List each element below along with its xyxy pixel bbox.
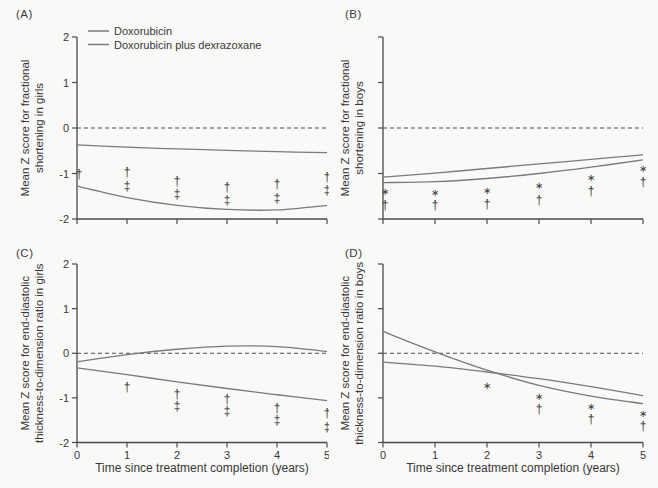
- y-axis-title-line2: shortening in girls: [33, 83, 45, 173]
- significance-marker: ∗: [431, 187, 439, 198]
- panel-b-chart: ∗†∗†∗†∗†∗†∗†Mean Z score for fractionals…: [329, 0, 658, 244]
- y-tick-label: 1: [63, 77, 69, 89]
- legend-label: Doxorubicin plus dexrazoxane: [114, 39, 261, 51]
- significance-marker: ∗: [587, 401, 595, 412]
- panel-a-chart: 210-1-2††‡†‡†‡†‡†‡Mean Z score for fract…: [0, 0, 329, 244]
- y-tick-label: 0: [63, 122, 69, 134]
- significance-marker: †: [124, 380, 131, 394]
- significance-marker: †: [274, 177, 281, 191]
- y-tick-label: -2: [59, 213, 69, 225]
- significance-marker: †: [382, 198, 389, 212]
- y-axis-title-line2: shortening in boys: [353, 81, 365, 175]
- x-tick-label: 0: [380, 449, 386, 461]
- series-line-doxorubicin: [383, 331, 643, 403]
- series-line-doxorubicin-plus-dexrazoxane: [77, 145, 327, 153]
- x-tick-label: 1: [432, 449, 438, 461]
- y-axis-title-line2: thickness-to-dimension ratio in girls: [33, 263, 45, 443]
- significance-marker: ∗: [535, 391, 543, 402]
- panel-d-chart: 012345∗∗†∗†∗†Mean Z score for end-diasto…: [329, 244, 658, 488]
- significance-marker: †: [588, 412, 595, 426]
- significance-marker: ∗: [381, 186, 389, 197]
- series-line-doxorubicin: [77, 186, 327, 210]
- significance-marker: ∗: [639, 163, 647, 174]
- significance-marker: ∗: [639, 408, 647, 419]
- significance-marker: ‡: [124, 179, 131, 193]
- x-axis-title-right: Time since treatment completion (years): [388, 461, 638, 475]
- y-axis-title-line1: Mean Z score for end-diastolic: [19, 276, 31, 431]
- x-tick-label: 4: [588, 449, 594, 461]
- x-tick-label: 4: [274, 449, 280, 461]
- x-tick-label: 3: [224, 449, 230, 461]
- x-tick-label: 1: [124, 449, 130, 461]
- significance-marker: ‡: [224, 404, 231, 418]
- x-tick-label: 2: [484, 449, 490, 461]
- x-tick-label: 5: [640, 449, 646, 461]
- y-tick-label: -1: [59, 392, 69, 404]
- four-panel-z-score-figure: (A) (B) (C) (D) 210-1-2††‡†‡†‡†‡†‡Mean Z…: [0, 0, 658, 488]
- legend-label: Doxorubicin: [114, 25, 172, 37]
- y-axis-title-line1: Mean Z score for end-diastolic: [339, 276, 351, 431]
- significance-marker: †: [588, 184, 595, 198]
- x-axis-title-left: Time since treatment completion (years): [77, 461, 327, 475]
- y-axis-title-line2: thickness-to-dimension ratio in boys: [353, 262, 365, 445]
- significance-marker: †: [536, 402, 543, 416]
- significance-marker: †: [640, 419, 647, 433]
- y-tick-label: 1: [63, 303, 69, 315]
- significance-marker: †: [484, 197, 491, 211]
- significance-marker: †: [124, 165, 131, 179]
- panel-c-chart: 210-1-2012345††‡†‡†‡†‡Mean Z score for e…: [0, 244, 329, 488]
- y-tick-label: 0: [63, 347, 69, 359]
- significance-marker: ∗: [483, 185, 491, 196]
- significance-marker: ∗: [587, 172, 595, 183]
- x-tick-label: 2: [174, 449, 180, 461]
- significance-marker: †: [432, 198, 439, 212]
- x-tick-label: 0: [74, 449, 80, 461]
- significance-marker: ‡: [174, 187, 181, 201]
- significance-marker: ∗: [483, 380, 491, 391]
- significance-marker: ‡: [174, 399, 181, 413]
- significance-marker: ∗: [535, 180, 543, 191]
- x-tick-label: 3: [536, 449, 542, 461]
- significance-marker: †: [640, 175, 647, 189]
- y-tick-label: 2: [63, 258, 69, 270]
- series-line-doxorubicin: [77, 368, 327, 401]
- y-tick-label: -2: [59, 437, 69, 449]
- y-tick-label: -1: [59, 168, 69, 180]
- y-tick-label: 2: [63, 31, 69, 43]
- significance-marker: ‡: [274, 413, 281, 427]
- significance-marker: ‡: [274, 191, 281, 205]
- y-axis-title-line1: Mean Z score for fractional: [19, 60, 31, 197]
- series-line-doxorubicin: [383, 160, 643, 183]
- series-line-doxorubicin-plus-dexrazoxane: [77, 346, 327, 362]
- significance-marker: †: [536, 193, 543, 207]
- significance-marker: ‡: [224, 193, 231, 207]
- significance-marker: †: [76, 167, 83, 181]
- y-axis-title-line1: Mean Z score for fractional: [339, 60, 351, 197]
